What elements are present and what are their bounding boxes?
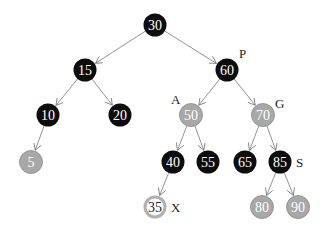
- tree-node-30: 30: [144, 14, 167, 37]
- tree-node-40: 40: [162, 151, 185, 174]
- edge-50-to-55: [195, 126, 204, 150]
- label-s: S: [296, 155, 303, 170]
- edge-30-to-60: [165, 31, 217, 63]
- node-value: 10: [41, 108, 55, 123]
- node-value: 50: [184, 108, 198, 123]
- red-black-tree-diagram: 30156010205070540556585358090 PAGSX: [0, 0, 328, 232]
- edge-70-to-85: [267, 126, 276, 150]
- tree-node-70: 70: [252, 104, 275, 127]
- node-value: 35: [148, 200, 162, 215]
- node-value: 15: [78, 63, 92, 78]
- tree-node-60: 60: [216, 59, 239, 82]
- tree-node-90: 90: [287, 196, 310, 219]
- label-p: P: [239, 46, 246, 61]
- edge-60-to-70: [234, 79, 255, 105]
- node-value: 85: [273, 155, 287, 170]
- tree-node-50: 50: [180, 104, 203, 127]
- label-x: X: [171, 200, 181, 215]
- node-value: 30: [148, 18, 162, 33]
- tree-node-80: 80: [251, 196, 274, 219]
- tree-node-20: 20: [109, 104, 132, 127]
- tree-node-85: 85: [269, 151, 292, 174]
- edge-70-to-65: [249, 126, 258, 151]
- tree-node-10: 10: [37, 104, 60, 127]
- edge-85-to-80: [267, 173, 276, 196]
- edge-40-to-35: [160, 173, 169, 196]
- tree-node-15: 15: [74, 59, 97, 82]
- label-a: A: [171, 92, 181, 107]
- node-value: 55: [201, 155, 215, 170]
- node-value: 90: [291, 200, 305, 215]
- node-value: 5: [28, 155, 35, 170]
- edge-50-to-40: [177, 126, 186, 151]
- edge-10-to-5: [35, 126, 44, 150]
- node-value: 65: [238, 155, 252, 170]
- node-value: 60: [220, 63, 234, 78]
- edge-15-to-10: [56, 79, 78, 105]
- tree-node-55: 55: [197, 151, 220, 174]
- node-value: 40: [166, 155, 180, 170]
- tree-node-5: 5: [20, 151, 43, 174]
- node-value: 20: [113, 108, 127, 123]
- node-value: 70: [256, 108, 270, 123]
- edge-15-to-20: [92, 79, 112, 105]
- tree-node-65: 65: [234, 151, 257, 174]
- edge-60-to-50: [199, 79, 220, 105]
- tree-node-35: 35: [145, 197, 165, 217]
- node-value: 80: [255, 200, 269, 215]
- edge-30-to-15: [96, 31, 146, 63]
- label-g: G: [275, 96, 284, 111]
- nodes: 30156010205070540556585358090: [20, 14, 310, 219]
- edge-85-to-90: [284, 173, 293, 196]
